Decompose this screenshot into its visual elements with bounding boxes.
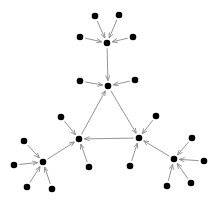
- node-r1: [153, 113, 160, 120]
- node-t1: [92, 13, 99, 20]
- edge-t1-to-top-hub: [97, 21, 105, 38]
- node-l2: [86, 164, 93, 171]
- edge-a2-to-apex: [113, 81, 130, 85]
- node-a1: [77, 78, 84, 85]
- edge-b4-to-bl-hub: [45, 167, 51, 184]
- node-c3: [188, 180, 195, 187]
- edge-a1-to-apex: [85, 82, 103, 85]
- node-b1: [21, 138, 28, 145]
- node-c1: [189, 135, 196, 142]
- node-r2: [127, 163, 134, 170]
- node-b4: [49, 186, 56, 193]
- edge-left-to-apex: [82, 91, 106, 135]
- node-right: [136, 135, 143, 142]
- edge-c4-to-br-hub: [168, 164, 172, 181]
- edge-t2-to-top-hub: [109, 20, 117, 38]
- edge-l2-to-left: [81, 144, 87, 162]
- node-t4: [130, 34, 137, 41]
- node-t2: [116, 12, 123, 19]
- node-bl-hub: [40, 159, 47, 166]
- node-b3: [24, 184, 31, 191]
- edge-c1-to-br-hub: [177, 142, 188, 155]
- nodes: [11, 12, 208, 193]
- node-l1: [58, 114, 65, 121]
- edge-br-hub-to-right: [144, 141, 170, 157]
- edge-right-to-left: [84, 138, 133, 139]
- node-left: [76, 136, 83, 143]
- edge-top-hub-to-apex: [107, 48, 108, 80]
- node-apex: [105, 83, 112, 90]
- edge-r1-to-right: [142, 120, 153, 134]
- edge-apex-to-right: [111, 91, 137, 134]
- network-diagram: [0, 0, 223, 214]
- node-top-hub: [104, 40, 111, 47]
- edge-b3-to-bl-hub: [30, 166, 40, 182]
- edge-t4-to-top-hub: [112, 38, 128, 42]
- node-c4: [164, 183, 171, 190]
- node-a2: [132, 77, 139, 84]
- edge-c2-to-br-hub: [179, 159, 198, 160]
- edge-b2-to-bl-hub: [19, 163, 37, 165]
- node-t3: [77, 34, 84, 41]
- edge-bl-hub-to-left: [47, 142, 74, 159]
- node-br-hub: [171, 156, 178, 163]
- node-b2: [11, 162, 18, 169]
- edge-c3-to-br-hub: [177, 163, 188, 178]
- edge-b1-to-bl-hub: [28, 145, 40, 158]
- edge-r2-to-right: [132, 143, 138, 161]
- edge-t3-to-top-hub: [85, 38, 102, 42]
- edge-l1-to-left: [64, 121, 75, 135]
- node-c2: [201, 158, 208, 165]
